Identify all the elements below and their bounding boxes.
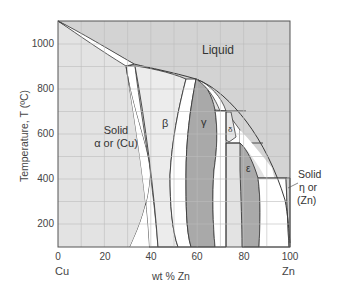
alpha-label-line2: α or (Cu) bbox=[80, 137, 152, 150]
y-tick-1000: 1000 bbox=[24, 39, 54, 49]
delta-label: δ bbox=[228, 125, 232, 134]
x-tick-100: 100 bbox=[278, 252, 302, 262]
alpha-label-line1: Solid bbox=[86, 124, 146, 137]
liquid-label: Liquid bbox=[202, 44, 234, 58]
epsilon-eta-band bbox=[258, 178, 289, 247]
y-tick-200: 200 bbox=[24, 219, 54, 229]
x-tick-0: 0 bbox=[46, 252, 70, 262]
epsilon-label: ε bbox=[246, 163, 250, 175]
x-tick-20: 20 bbox=[93, 252, 117, 262]
cu-label: Cu bbox=[55, 266, 69, 277]
x-tick-60: 60 bbox=[185, 252, 209, 262]
gamma-label: γ bbox=[201, 116, 207, 129]
y-axis-label: Temperature, T (ºC) bbox=[18, 76, 30, 196]
eta-label-line3: (Zn) bbox=[297, 194, 316, 206]
x-axis-label: wt % Zn bbox=[152, 271, 190, 282]
zn-label: Zn bbox=[282, 266, 295, 277]
cu-zn-phase-diagram: 1000 800 600 400 200 0 20 40 60 80 100 C… bbox=[0, 0, 338, 297]
x-tick-80: 80 bbox=[232, 252, 256, 262]
beta-label: β bbox=[162, 117, 168, 130]
x-tick-40: 40 bbox=[139, 252, 163, 262]
eta-label-line1: Solid bbox=[298, 168, 321, 180]
eta-label-line2: η or bbox=[299, 181, 317, 193]
